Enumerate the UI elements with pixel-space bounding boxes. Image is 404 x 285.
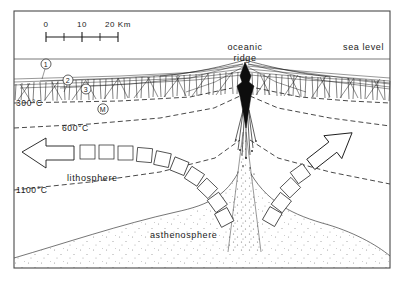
marker-1-label: 1 (44, 61, 49, 68)
label-asthenosphere: asthenosphere (150, 230, 217, 240)
marker-m: M (98, 104, 108, 114)
diagram-figure: 0 10 20 Km oceanic ridge sea level litho… (0, 0, 404, 285)
label-isotherm-600: 600°C (62, 123, 89, 133)
label-oceanic: oceanic (227, 42, 262, 52)
scale-tick-20: 20 Km (105, 20, 131, 29)
marker-3: 3 (81, 84, 91, 94)
scale-tick-0: 0 (43, 20, 48, 29)
marker-3-label: 3 (84, 86, 89, 93)
label-lithosphere: lithosphere (67, 173, 118, 183)
scale-tick-10: 10 (77, 20, 87, 29)
label-sea-level: sea level (343, 42, 384, 52)
label-ridge: ridge (233, 53, 256, 63)
marker-m-label: M (100, 106, 106, 113)
label-isotherm-300: 300°C (16, 98, 43, 108)
label-isotherm-1100: 1100°C (16, 185, 47, 195)
marker-2-label: 2 (66, 77, 71, 84)
